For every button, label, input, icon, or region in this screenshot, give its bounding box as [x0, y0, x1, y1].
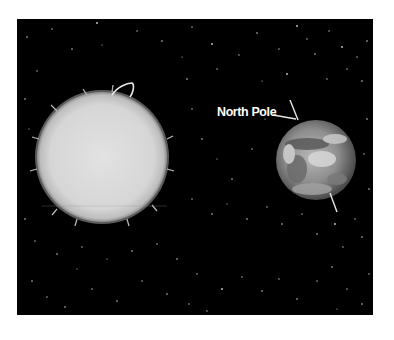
- north-pole-label: North Pole: [217, 105, 276, 119]
- space-scene: [17, 19, 373, 315]
- label-leader-line: [273, 115, 296, 119]
- space-illustration: North Pole: [17, 19, 373, 315]
- sun: [30, 83, 174, 226]
- earth: [276, 120, 356, 200]
